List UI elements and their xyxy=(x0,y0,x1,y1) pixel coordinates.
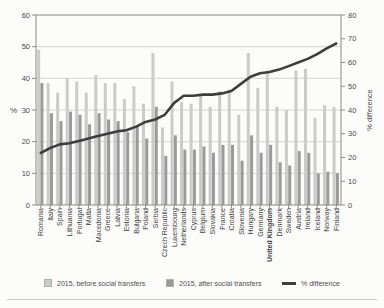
bar-after xyxy=(136,126,139,205)
x-category-label: Croatia xyxy=(228,208,235,231)
bar-after xyxy=(231,145,234,205)
chart-figure: 0102030405060%01020304050607080% differe… xyxy=(0,0,384,308)
x-category-label: Bulgaria xyxy=(133,208,141,234)
legend-item-before: 2015, before social transfers xyxy=(44,278,145,288)
bar-before xyxy=(132,86,135,205)
bar-before xyxy=(56,93,59,205)
bar-after xyxy=(69,112,72,205)
bar-before xyxy=(37,50,40,205)
bar-before xyxy=(190,104,193,205)
right-axis-tick-label: 0 xyxy=(348,201,352,210)
bar-before xyxy=(94,75,97,205)
bar-before xyxy=(228,89,231,205)
bar-before xyxy=(113,83,116,205)
x-category-label: Finland xyxy=(333,208,340,231)
bar-before xyxy=(180,102,183,205)
bar-after xyxy=(260,153,263,205)
x-axis: RomaniaItalySpainLithuaniaPortugalMaltaM… xyxy=(37,205,339,262)
right-axis-tick-label: 60 xyxy=(348,58,356,67)
bar-before xyxy=(66,78,69,205)
bar-before xyxy=(275,107,278,205)
bar-after xyxy=(50,113,53,205)
legend-item-diff: % difference xyxy=(282,278,340,288)
bar-after xyxy=(40,83,43,205)
x-category-label: Denmark xyxy=(276,208,283,237)
bar-before xyxy=(199,96,202,205)
diff-line-swatch-icon xyxy=(282,282,296,285)
left-axis-tick-label: 20 xyxy=(22,137,30,146)
bar-before xyxy=(256,88,259,205)
bar-after xyxy=(317,173,320,205)
x-category-label: Macedonia xyxy=(95,208,102,242)
bar-before xyxy=(333,107,336,205)
x-category-label: Sweden xyxy=(285,208,292,233)
x-category-label: France xyxy=(219,208,226,230)
x-category-label: Serbia xyxy=(152,208,159,228)
left-axis-tick-label: 0 xyxy=(26,201,30,210)
x-category-label: Belgium xyxy=(199,208,207,233)
legend-label-after: 2015, after social transfers xyxy=(179,280,262,287)
bar-before xyxy=(266,70,269,205)
bar-after xyxy=(117,121,120,205)
bar-before xyxy=(75,82,78,206)
bar-after xyxy=(241,161,244,205)
bar-before xyxy=(294,70,297,205)
bar-before xyxy=(161,127,164,205)
left-axis-tick-label: 30 xyxy=(22,106,30,115)
left-axis-tick-label: 10 xyxy=(22,169,30,178)
bar-before xyxy=(304,69,307,205)
left-axis-tick-label: 60 xyxy=(22,11,30,20)
right-axis-title: % difference xyxy=(365,89,374,131)
bar-after xyxy=(326,172,329,205)
after-transfers-swatch-icon xyxy=(166,279,174,287)
right-axis-tick-label: 80 xyxy=(348,11,356,20)
left-axis-tick-label: 40 xyxy=(22,74,30,83)
x-category-label: Lithuania xyxy=(66,208,73,237)
x-category-label: Spain xyxy=(56,208,64,226)
x-category-label: Iceland xyxy=(314,208,321,231)
bar-after xyxy=(59,121,62,205)
legend-label-before: 2015, before social transfers xyxy=(57,280,145,287)
bar-after xyxy=(98,113,101,205)
bar-after xyxy=(269,145,272,205)
x-category-label: Italy xyxy=(47,208,55,221)
left-axis-tick-label: 50 xyxy=(22,42,30,51)
bar-before xyxy=(285,110,288,205)
right-axis: 01020304050607080% difference xyxy=(341,11,374,210)
right-axis-tick-label: 40 xyxy=(348,106,356,115)
right-axis-tick-label: 50 xyxy=(348,82,356,91)
bar-after xyxy=(202,146,205,205)
x-category-label: Greece xyxy=(104,208,111,231)
bar-before xyxy=(323,105,326,205)
x-category-label: Netherlands xyxy=(180,208,187,246)
right-axis-tick-label: 30 xyxy=(348,129,356,138)
bar-before xyxy=(171,82,174,206)
bar-before xyxy=(85,93,88,205)
bar-before xyxy=(123,99,126,205)
bar-before xyxy=(104,83,107,205)
x-category-label: Estonia xyxy=(123,208,130,231)
x-category-label: Hungary xyxy=(247,208,255,235)
bar-after xyxy=(164,156,167,205)
bar-after xyxy=(307,153,310,205)
x-category-label: Malta xyxy=(85,208,92,225)
right-axis-tick-label: 70 xyxy=(348,34,356,43)
x-category-label: United Kingdom xyxy=(266,208,274,262)
chart-legend: 2015, before social transfers 2015, afte… xyxy=(0,278,384,292)
left-axis-title: % xyxy=(10,106,17,115)
bar-after xyxy=(336,173,339,205)
bar-after xyxy=(250,135,253,205)
bar-after xyxy=(279,162,282,205)
x-category-label: Slovakia xyxy=(209,208,216,235)
bar-before xyxy=(247,53,250,205)
bar-before xyxy=(314,118,317,205)
bar-before xyxy=(142,104,145,205)
bar-after xyxy=(183,150,186,205)
bar-after xyxy=(145,139,148,206)
bar-before xyxy=(237,115,240,205)
bar-after xyxy=(221,145,224,205)
bar-before xyxy=(209,107,212,205)
x-category-label: Norway xyxy=(323,208,331,232)
bar-after xyxy=(174,135,177,205)
x-category-label: Ireland xyxy=(304,208,311,230)
